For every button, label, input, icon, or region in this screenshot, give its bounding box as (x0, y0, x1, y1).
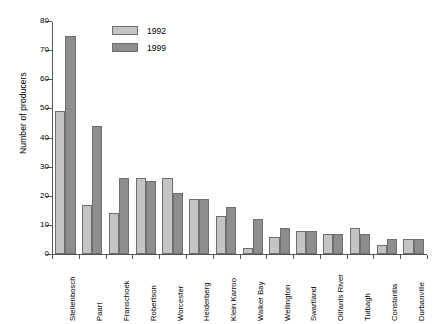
bar-group (243, 22, 263, 254)
bar-1999 (173, 193, 183, 254)
legend-label-1999: 1999 (147, 43, 166, 53)
x-tick-mark (186, 255, 187, 259)
chart-legend: 1992 1999 (112, 24, 198, 58)
x-axis-label: Worcester (176, 286, 185, 321)
bar-group (55, 22, 75, 254)
x-tick-mark (213, 255, 214, 259)
y-axis-title: Number of producers (18, 43, 28, 183)
bar-1992 (377, 245, 387, 254)
x-tick-mark (400, 255, 401, 259)
x-axis-label: Olifants River (336, 274, 345, 321)
y-tick-label: 20 (40, 191, 49, 200)
x-tick-mark (266, 255, 267, 259)
x-tick-mark (132, 255, 133, 259)
x-tick-mark (373, 255, 374, 259)
bar-1992 (162, 178, 172, 254)
x-tick-mark (52, 255, 53, 259)
bar-1999 (306, 231, 316, 254)
y-tick-label: 50 (40, 103, 49, 112)
bar-1999 (360, 234, 370, 254)
plot-area: 01020304050607080 (52, 22, 427, 255)
legend-swatch-1992 (112, 26, 138, 35)
x-tick-mark (79, 255, 80, 259)
bar-1999 (333, 234, 343, 254)
bar-1999 (387, 239, 397, 254)
legend-label-1992: 1992 (147, 26, 166, 36)
y-tick-label: 10 (40, 220, 49, 229)
bar-1992 (269, 237, 279, 254)
bar-group (377, 22, 397, 254)
bar-1992 (323, 234, 333, 254)
legend-item-1999: 1999 (112, 41, 198, 54)
bar-group (350, 22, 370, 254)
y-tick-label: 80 (40, 16, 49, 25)
bar-1999 (414, 239, 424, 254)
x-tick-mark (347, 255, 348, 259)
x-tick-mark (320, 255, 321, 259)
bar-1992 (136, 178, 146, 254)
x-tick-mark (106, 255, 107, 259)
bar-1999 (65, 36, 75, 254)
y-tick-label: 70 (40, 45, 49, 54)
bar-1992 (189, 199, 199, 254)
y-tick-label: 60 (40, 74, 49, 83)
bar-1999 (199, 199, 209, 254)
x-axis-label: Tulbagh (363, 293, 372, 321)
bar-group (82, 22, 102, 254)
bar-1999 (146, 181, 156, 254)
y-tick-label: 40 (40, 133, 49, 142)
x-axis-label: Constantia (390, 284, 399, 321)
bar-1992 (296, 231, 306, 254)
x-tick-mark (293, 255, 294, 259)
bar-1992 (109, 213, 119, 254)
x-axis-label: Durbanville (417, 282, 426, 321)
x-axis-label: Swartland (309, 286, 318, 321)
legend-swatch-1999 (112, 43, 138, 52)
bar-1999 (253, 219, 263, 254)
bar-chart: Number of producers 01020304050607080 St… (0, 0, 439, 324)
x-tick-mark (240, 255, 241, 259)
bar-group (216, 22, 236, 254)
bar-group (296, 22, 316, 254)
bar-1992 (55, 111, 65, 254)
y-tick-label: 0 (45, 249, 49, 258)
x-axis-label: Stellenbosch (68, 276, 77, 321)
x-axis-label: Walker Bay (256, 281, 265, 321)
bar-group (403, 22, 423, 254)
x-axis-label: Klein Karroo (229, 278, 238, 321)
legend-item-1992: 1992 (112, 24, 198, 37)
x-axis-label: Franschoek (122, 280, 131, 321)
bar-1999 (119, 178, 129, 254)
bar-1992 (350, 228, 360, 254)
x-axis-labels: StellenboschPaarlFranschoekRobertsonWorc… (52, 261, 427, 323)
bar-group (323, 22, 343, 254)
x-tick-mark (427, 255, 428, 259)
bar-1992 (243, 248, 253, 254)
x-axis-label: Wellington (283, 285, 292, 321)
x-axis-label: Robertson (149, 285, 158, 321)
bar-1992 (82, 205, 92, 255)
bar-1999 (92, 126, 102, 254)
bar-1992 (216, 216, 226, 254)
bar-groups (52, 22, 427, 254)
y-tick-label: 30 (40, 162, 49, 171)
x-axis-label: Paarl (95, 303, 104, 321)
bar-1999 (226, 207, 236, 254)
x-axis-label: Helderberg (202, 282, 211, 321)
bar-1999 (280, 228, 290, 254)
x-tick-mark (159, 255, 160, 259)
bar-1992 (403, 239, 413, 254)
bar-group (269, 22, 289, 254)
